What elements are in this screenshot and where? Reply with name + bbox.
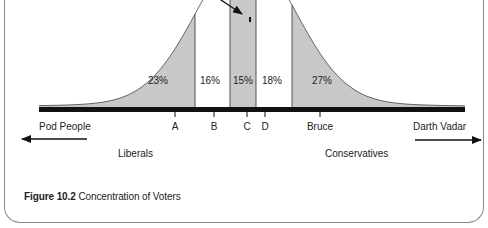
segment-5 (292, 0, 465, 107)
axis-right-label: Darth Vadar (413, 121, 467, 132)
segment-percent-label: 23% (148, 75, 168, 86)
spectrum-baseline (39, 107, 465, 112)
marker-label-d: D (261, 121, 268, 132)
segment-percent-label: 16% (200, 75, 220, 86)
axis-left-label: Pod People (39, 121, 91, 132)
segment-2 (195, 0, 230, 107)
segment-3 (230, 0, 256, 107)
marker-label-c: C (243, 121, 250, 132)
marker-label-b: B (211, 121, 218, 132)
segment-4 (256, 0, 292, 107)
marker-label-a: A (172, 121, 179, 132)
segment-percent-label: 18% (262, 75, 282, 86)
figure-title: Concentration of Voters (76, 191, 181, 202)
segment-percent-label: 27% (312, 75, 332, 86)
figure-caption: Figure 10.2 Concentration of Voters (24, 191, 181, 202)
pointer-mark (249, 17, 251, 22)
marker-label-bruce: Bruce (307, 121, 334, 132)
segment-percent-label: 15% (233, 75, 253, 86)
conservatives-label: Conservatives (325, 148, 388, 159)
liberals-label: Liberals (118, 148, 153, 159)
figure-number: Figure 10.2 (24, 191, 76, 202)
